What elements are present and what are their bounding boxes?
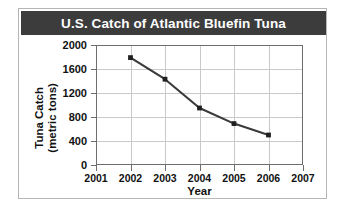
tuna-catch-markers <box>128 55 271 137</box>
data-point-marker <box>232 121 237 126</box>
tuna-catch-line <box>131 58 269 135</box>
data-series-layer <box>19 9 328 200</box>
data-point-marker <box>197 106 202 111</box>
data-point-marker <box>163 77 168 82</box>
y-axis-label: Tuna Catch (metric tons) <box>33 63 59 173</box>
y-axis-label-line2: (metric tons) <box>46 63 59 173</box>
y-axis-label-line1: Tuna Catch <box>33 63 46 173</box>
chart-figure: U.S. Catch of Atlantic Bluefin Tuna 0400… <box>18 8 327 199</box>
x-axis-label: Year <box>96 185 303 197</box>
data-point-marker <box>128 55 133 60</box>
data-point-marker <box>266 133 271 138</box>
